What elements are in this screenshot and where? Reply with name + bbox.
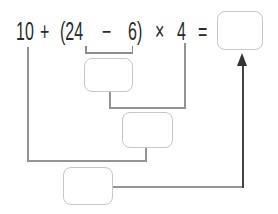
expression-token-6-close-paren: 6) (128, 19, 142, 44)
arrow-up-icon (237, 53, 247, 66)
grouping-bracket (85, 52, 133, 54)
order-of-operations-worksheet: 10 + (24 − 6) × 4 = (0, 0, 278, 214)
step1-result-box[interactable] (84, 58, 133, 92)
expression-token-10: 10 (16, 19, 34, 44)
connector-step3-right-line (113, 186, 244, 188)
expression-token-equals: = (198, 19, 207, 44)
step3-result-box[interactable] (63, 167, 113, 205)
step2-result-box[interactable] (122, 112, 173, 148)
expression-token-open-paren-24: (24 (60, 19, 83, 44)
arrow-shaft-line (242, 64, 244, 188)
connector-under-4-line (184, 43, 186, 109)
answer-box[interactable] (217, 11, 263, 50)
connector-plus-join-line (27, 160, 147, 162)
expression-token-minus: − (102, 19, 111, 44)
connector-under-10-line (27, 47, 29, 162)
bracket-right-tick (132, 46, 134, 54)
expression-token-plus: + (40, 19, 49, 44)
connector-step1-to-4-line (109, 107, 186, 109)
expression-token-4: 4 (177, 19, 186, 44)
expression-token-times: × (155, 19, 164, 44)
